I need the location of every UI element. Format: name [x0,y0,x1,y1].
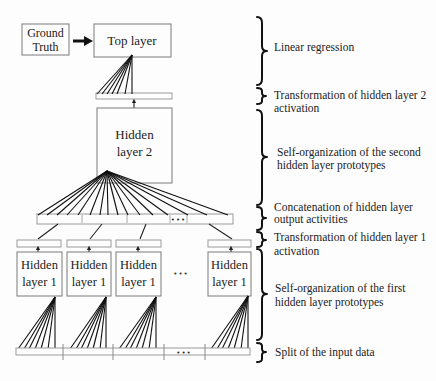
annotation-selforg-first-line2: hidden layer prototypes [275,296,384,309]
brace-icon [257,110,267,205]
concatenation-bar: ••• [37,214,233,224]
annotation-transform-hl1-line1: Transformation of hidden layer 1 [274,231,426,244]
hidden-layer-1-up-arrows [38,248,231,252]
brace-icon [257,343,266,362]
annotation-braces [257,17,267,362]
annotation-selforg-first-line1: Self-organization of the first [275,282,406,295]
arrow-right-icon [73,36,93,46]
ground-truth-label-line2: Truth [32,40,58,54]
brace-icon [257,17,267,85]
input-data-bar: ••• [16,344,250,360]
annotation-split-input: Split of the input data [275,346,375,359]
annotation-labels: Linear regression Transformation of hidd… [274,41,426,359]
top-layer-connections [97,55,132,94]
input-ellipsis: ••• [176,349,191,357]
hidden-layer-1-connections [18,296,248,349]
top-layer-node: Top layer [94,24,171,57]
annotation-concat-line2: output activities [274,213,348,226]
hidden-layer-1-label-line1: Hidden [71,258,109,272]
annotation-selforg-second-line2: hidden layer prototypes [277,159,386,172]
annotation-transform-hl2-line2: activation [274,102,320,114]
hidden-layer-1-activation-bars [17,240,251,247]
brace-icon [257,207,266,230]
hidden-layer-2-label-line1: Hidden [115,127,154,142]
hidden-layer-1-label-line2: layer 1 [212,275,246,289]
annotation-transform-hl2-line1: Transformation of hidden layer 2 [274,89,426,102]
between-boxes-ellipsis: ••• [173,270,188,278]
concat-ellipsis: ••• [171,216,186,224]
network-diagram: Ground Truth Top layer Hidden layer 2 [0,0,436,381]
brace-icon [257,232,266,247]
hidden-layer-1-node: Hidden layer 1 [208,252,251,296]
concat-links [38,224,232,239]
annotation-selforg-second-line1: Self-organization of the second [277,146,421,159]
hidden-layer-1-label-line1: Hidden [211,258,249,272]
annotation-transform-hl1-line2: activation [274,245,320,257]
hidden-layer-1-node: Hidden layer 1 [67,252,111,296]
hidden-layer-1-node: Hidden layer 1 [116,252,161,296]
annotation-linear-regression: Linear regression [274,41,354,54]
brace-icon [257,249,267,340]
ground-truth-node: Ground Truth [22,24,69,55]
ground-truth-label-line1: Ground [27,26,64,40]
hidden-layer-1-label-line2: layer 1 [72,275,106,289]
brace-icon [257,88,266,104]
hidden-layer-1-node: Hidden layer 1 [17,252,62,296]
hidden-layer-2-label-line2: layer 2 [117,144,153,159]
top-layer-label: Top layer [107,33,157,48]
hidden-layer-1-label-line2: layer 1 [121,275,155,289]
hidden-layer-1-label-line1: Hidden [21,258,59,272]
hidden-layer-1-label-line2: layer 1 [22,275,56,289]
hidden-layer-1-label-line1: Hidden [120,258,158,272]
